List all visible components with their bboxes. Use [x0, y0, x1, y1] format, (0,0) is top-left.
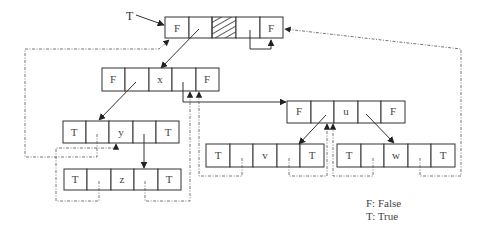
node-z: T z T	[64, 169, 181, 190]
legend: F: False T: True	[366, 197, 401, 223]
node-w: T w T	[337, 144, 455, 167]
node-x-data: x	[157, 73, 163, 85]
node-z-left-flag: T	[72, 173, 79, 185]
node-v-left-flag: T	[215, 149, 222, 161]
node-x-right-flag: F	[204, 73, 210, 85]
node-z-data: z	[120, 173, 125, 185]
node-u: F u F	[287, 101, 405, 123]
node-w-left-flag: T	[346, 149, 353, 161]
node-v: T v T	[206, 144, 324, 167]
head-pointer-label: T	[126, 9, 134, 23]
node-y-data: y	[118, 126, 124, 138]
node-z-right-flag: T	[166, 173, 173, 185]
head-right-flag: F	[268, 22, 274, 34]
node-v-right-flag: T	[309, 149, 316, 161]
threaded-tree-diagram: T F F F x F T y T	[0, 0, 483, 231]
node-u-data: u	[343, 105, 349, 117]
head-left-flag: F	[174, 22, 180, 34]
head-node: F F	[165, 17, 283, 38]
node-v-data: v	[262, 149, 268, 161]
node-u-left-flag: F	[296, 105, 302, 117]
node-x-left-flag: F	[110, 73, 116, 85]
legend-true: T: True	[366, 210, 401, 223]
node-y: T y T	[63, 121, 179, 143]
node-u-right-flag: F	[390, 105, 396, 117]
legend-false: F: False	[366, 197, 401, 210]
node-y-right-flag: T	[165, 126, 172, 138]
node-x: F x F	[102, 68, 219, 91]
node-y-left-flag: T	[71, 126, 78, 138]
node-w-data: w	[392, 149, 400, 161]
node-w-right-flag: T	[440, 149, 447, 161]
head-pointer-arrow	[136, 15, 164, 25]
